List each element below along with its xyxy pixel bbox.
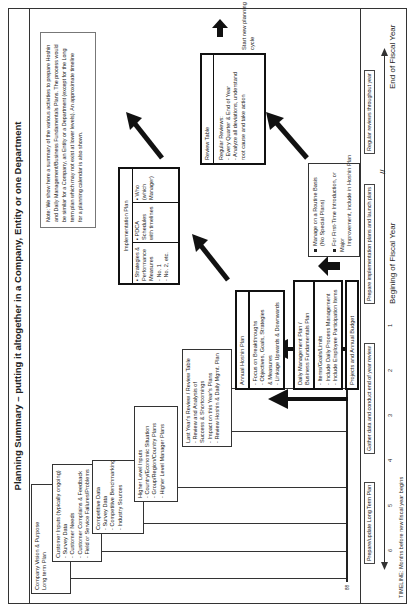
daily-line: - Items/Goals/Limits (317, 285, 324, 385)
title-bar: Planning Summary – putting it altogether… (8, 8, 30, 604)
timeline-axis (384, 54, 385, 564)
connector-line (232, 431, 346, 432)
impl-line: ▪ Strategies & (134, 243, 141, 281)
hoshin-line: - Focus on Breakthroughs (252, 295, 259, 385)
timeline: Prepare/update Long Term Plan Gather dat… (360, 8, 407, 604)
input-line: - Survey Data (102, 464, 109, 530)
end-fiscal-year-label: End of Fiscal Year (388, 25, 397, 89)
diagram-title: Planning Summary – putting it altogether… (12, 8, 23, 604)
timeline-box-implementation: Prepare implementation plans and launch … (364, 184, 375, 304)
timeline-caption: TIMELINE: Months before new fiscal year … (398, 477, 404, 598)
impl-line: Manager) (148, 166, 155, 200)
review-table-header: Review Table (202, 55, 214, 163)
impl-line: Measures (148, 243, 155, 281)
arrow-left-icon (381, 562, 388, 570)
month-tick: 3 (387, 414, 393, 417)
connector-line (71, 578, 346, 579)
timeline-break-icon: // (378, 170, 387, 174)
daily-line: - Include Employee Participation Items (332, 285, 339, 385)
impl-line: with timelines (148, 202, 155, 240)
input-box-last-year-review: Last Year's Review / Review Table - Revi… (182, 349, 232, 447)
input-line: - Group/Region/Country Plans (151, 410, 158, 498)
timeline-box-long-term: Prepare/update Long Term Plan (364, 482, 375, 564)
review-table-box: Review Table Regular Reviews: - Every Qu… (200, 53, 266, 165)
new-cycle-line: new planning (241, 2, 247, 36)
input-line: - Customer Complains & Feedback (77, 468, 84, 558)
input-line: - Survey Data (62, 468, 69, 558)
impl-line: ▪ Who (134, 166, 141, 200)
review-line: Regular Reviews: (218, 58, 225, 160)
timeline-box-line: Long Term Plan (366, 485, 372, 523)
month-tick: 4 (387, 459, 393, 462)
daily-plan-header: Daily Management Plan / (297, 285, 304, 385)
input-line: Long term Plan (41, 488, 48, 590)
arrow-diagonal-icon (264, 110, 309, 160)
impl-line: ▪ PDCA (134, 202, 141, 240)
routine-line: For First-Time Introduction, or Major (331, 172, 344, 252)
new-cycle-line: cycle (249, 37, 255, 50)
review-line: root cause and take action (240, 58, 247, 160)
diagram-canvas: Planning Summary – putting it altogether… (0, 0, 413, 612)
input-line: - Field or Service Failures/Problems (84, 468, 91, 558)
arrow-right-icon (381, 48, 388, 56)
projects-budget-box: Projects and Annual Budget (345, 280, 359, 390)
input-line: Success & Shortcomings (199, 353, 206, 443)
arrow-diagonal-icon (124, 110, 164, 160)
note-line: and Daily Management/Business Fundamenta… (52, 38, 60, 222)
arrow-up-icon (318, 256, 340, 276)
daily-line: - Include Daily Process Management (325, 285, 332, 385)
connector-line (178, 487, 346, 488)
note-line: Note: We show here a summary of the vari… (44, 38, 52, 222)
routine-line: (No Special Plans) (319, 168, 326, 252)
timeline-box-gather-data: Gather data and conduct end of year revi… (364, 343, 375, 454)
timeline-box-line: Prepare implementation plans (366, 229, 372, 301)
timeline-box-regular-reviews: Regular reviews throughout year (364, 70, 375, 154)
input-line: - Review Hoshin & Daily Mgmt. Plan (214, 353, 221, 443)
routine-box: Manage on a Routine Basis (No Special Pl… (308, 163, 360, 257)
review-line: - Every Quarter & End of Year (225, 58, 232, 160)
input-line: - Competitive Benchmarking (109, 464, 116, 530)
bullet-icon (333, 249, 336, 252)
hoshin-line: - Objectives, Goals, Strategies (259, 295, 266, 385)
impl-line: - No. 1 (156, 243, 163, 281)
projects-budget-label: Projects and Annual Budget (349, 316, 355, 385)
review-line: - Analyze all deviations, understand (232, 58, 239, 160)
input-line: - Impact on this Year's Plans (207, 353, 214, 443)
routine-line: Manage on a Routine Basis (312, 177, 318, 246)
timeline-box-line: Prepare/update (366, 524, 372, 561)
hoshin-line: - Linkage Upwards & Downwards (274, 295, 281, 385)
routine-line: Improvement, include in Hoshin Plan (346, 168, 353, 252)
month-tick: 6 (387, 549, 393, 552)
input-box-higher-level: Higher Level Inputs - Country/Economic S… (134, 406, 178, 502)
input-line: Company Vision & Purpose (34, 488, 41, 590)
hoshin-plan-header: Annual Hoshin Plan (237, 292, 250, 388)
timeline-box-line: end of year review (366, 346, 372, 390)
input-line: Last Year's Review / Review Table (185, 353, 192, 443)
input-line: - Industry Sources (117, 464, 124, 530)
page-mark: 88 (345, 585, 350, 590)
input-line: Higher Level Inputs (137, 410, 144, 498)
note-line: for a planning calendar is also shown. (76, 38, 84, 222)
month-tick: 5 (387, 504, 393, 507)
timeline-box-line: Regular reviews throughout year (366, 73, 372, 151)
input-line: - Review and Analysis of (192, 353, 199, 443)
input-line: - Customer Needs (69, 468, 76, 558)
hoshin-plan-box: Annual Hoshin Plan - Focus on Breakthrou… (235, 290, 285, 390)
daily-management-box: Daily Management Plan / Business Fundame… (293, 280, 343, 390)
new-cycle-label: Start new planning cycle (240, 0, 256, 50)
impl-line: - No. 2, etc. (163, 243, 170, 281)
new-cycle-line: Start (241, 38, 247, 50)
impl-line: (which (141, 166, 148, 200)
daily-plan-header: Business Fundamentals Plan (304, 285, 311, 385)
timeline-box-line: Gather data and conduct (366, 392, 372, 451)
input-line: Customer Inputs (typically ongoing) (55, 468, 62, 558)
hoshin-line: & Measures (267, 295, 274, 385)
arrow-diagonal-icon (190, 232, 230, 282)
input-line: - Country/Economic Situation (144, 410, 151, 498)
note-line: be similar for a Company, an Entity or a… (60, 38, 68, 222)
note-line: term plan which may not exist at lower l… (68, 38, 76, 222)
timeline-box-line: and launch plans (366, 187, 372, 228)
connector-line (144, 523, 346, 524)
arrow-right-icon (212, 19, 228, 37)
input-line: - Higher Level Manager Plans (159, 410, 166, 498)
